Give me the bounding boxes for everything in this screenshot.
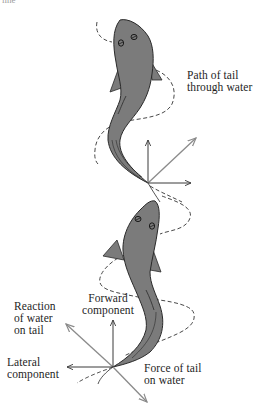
reaction-of-water-arrow [66,324,113,367]
fish-propulsion-diagram: line [0,0,272,409]
label-lateral-component: Lateral component [7,356,59,380]
bottom-vector-set [66,320,147,402]
top-fish-body [108,20,153,183]
force-of-tail-arrow [113,367,147,402]
bottom-fish-group [77,196,194,384]
bottom-fish-left-fin [103,240,124,260]
label-force-of-tail: Force of tail on water [144,362,202,386]
label-reaction-of-water: Reaction of water on tail [14,300,56,336]
bottom-fish-body [113,201,163,367]
diagram-canvas [0,0,272,409]
label-path-of-tail: Path of tail through water [187,69,253,93]
top-fish-group [95,20,182,202]
label-forward-component: Forward component [82,292,134,316]
top-vector-set [148,138,196,183]
cut-off-caption-fragment: line [2,0,16,5]
top-resultant-arrow [148,138,196,183]
